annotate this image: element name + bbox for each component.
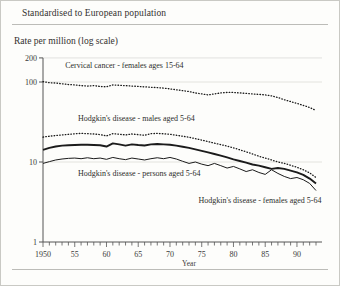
- footer-divider: [12, 269, 328, 270]
- x-tick-label: 70: [166, 250, 174, 259]
- series-annotation-2: Hodgkin's disease - persons aged 5-64: [78, 169, 201, 178]
- series-annotation-3: Hodgkin's disease - females aged 5-64: [199, 196, 322, 205]
- x-tick-label: 60: [102, 250, 110, 259]
- series-annotation-0: Cervical cancer - females ages 15-64: [65, 61, 183, 70]
- x-tick-label: 75: [198, 250, 206, 259]
- x-tick-label: 90: [293, 250, 301, 259]
- x-tick-label: 1950: [35, 250, 51, 259]
- x-tick-label: 85: [261, 250, 269, 259]
- y-tick-label: 10: [29, 158, 37, 167]
- figure-panel: Standardised to European population Rate…: [0, 0, 340, 286]
- y-tick-label: 100: [25, 78, 37, 87]
- x-tick-label: 65: [134, 250, 142, 259]
- line-chart: 20010010119505560657075808590YearCervica…: [0, 0, 340, 286]
- series-annotation-1: Hodgkin's disease - males aged 5-64: [78, 114, 195, 123]
- x-axis-title: Year: [182, 259, 196, 268]
- x-tick-label: 80: [229, 250, 237, 259]
- y-tick-label: 200: [25, 54, 37, 63]
- x-tick-label: 55: [71, 250, 79, 259]
- series-line-0: [43, 82, 316, 111]
- y-tick-label: 1: [33, 238, 37, 247]
